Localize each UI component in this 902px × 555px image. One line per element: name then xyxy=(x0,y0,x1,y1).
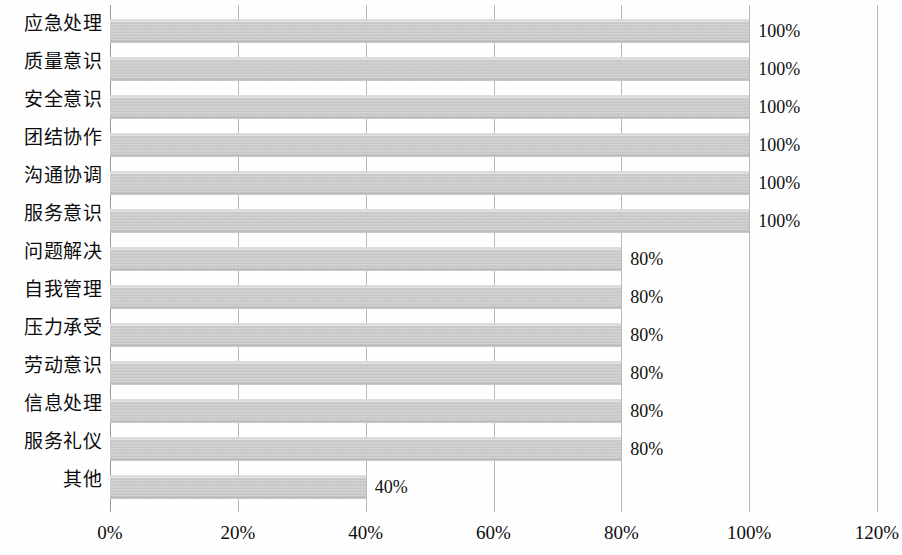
bar-shadow xyxy=(110,268,621,271)
bar-highlight xyxy=(110,361,621,364)
bar-chart: 应急处理质量意识安全意识团结协作沟通协调服务意识问题解决自我管理压力承受劳动意识… xyxy=(0,0,902,555)
category-label: 问题解决 xyxy=(0,240,102,264)
bar-shadow xyxy=(110,420,621,423)
bar-row: 100% xyxy=(110,164,877,202)
x-tick-label: 120% xyxy=(855,520,899,546)
bar-highlight xyxy=(110,57,749,60)
gridline-120pct xyxy=(877,5,878,512)
bar-row: 40% xyxy=(110,468,877,506)
x-tick-label: 20% xyxy=(220,520,255,546)
bar-highlight xyxy=(110,247,621,250)
bar-value-label: 100% xyxy=(758,96,800,118)
bar-value-label: 80% xyxy=(630,438,663,460)
x-tick-label: 100% xyxy=(727,520,771,546)
bar-row: 80% xyxy=(110,278,877,316)
x-tick-label: 0% xyxy=(97,520,122,546)
bar-highlight xyxy=(110,171,749,174)
bar-value-label: 40% xyxy=(375,476,408,498)
bar xyxy=(110,285,621,309)
category-axis-labels: 应急处理质量意识安全意识团结协作沟通协调服务意识问题解决自我管理压力承受劳动意识… xyxy=(0,5,102,512)
x-tick-label: 60% xyxy=(476,520,511,546)
bar-value-label: 80% xyxy=(630,324,663,346)
bar-shadow xyxy=(110,192,749,195)
category-label: 压力承受 xyxy=(0,316,102,340)
bar-highlight xyxy=(110,19,749,22)
bar-highlight xyxy=(110,475,366,478)
bar-shadow xyxy=(110,116,749,119)
bar-shadow xyxy=(110,496,366,499)
bar-row: 100% xyxy=(110,50,877,88)
bars-layer: 100%100%100%100%100%100%80%80%80%80%80%8… xyxy=(110,5,877,512)
category-label: 服务意识 xyxy=(0,202,102,226)
bar xyxy=(110,19,749,43)
category-label: 服务礼仪 xyxy=(0,430,102,454)
bar-value-label: 100% xyxy=(758,134,800,156)
bar-highlight xyxy=(110,95,749,98)
bar-highlight xyxy=(110,437,621,440)
x-tick-label: 80% xyxy=(604,520,639,546)
bar-row: 80% xyxy=(110,430,877,468)
bar-value-label: 80% xyxy=(630,400,663,422)
bar-highlight xyxy=(110,285,621,288)
bar xyxy=(110,95,749,119)
category-label: 其他 xyxy=(0,468,102,492)
bar-highlight xyxy=(110,209,749,212)
bar-shadow xyxy=(110,306,621,309)
bar-shadow xyxy=(110,40,749,43)
x-tick-label: 40% xyxy=(348,520,383,546)
bar-shadow xyxy=(110,78,749,81)
bar-value-label: 100% xyxy=(758,210,800,232)
bar-highlight xyxy=(110,399,621,402)
bar xyxy=(110,399,621,423)
bar-shadow xyxy=(110,344,621,347)
category-label: 信息处理 xyxy=(0,392,102,416)
bar xyxy=(110,209,749,233)
bar-shadow xyxy=(110,230,749,233)
bar-row: 80% xyxy=(110,354,877,392)
category-label: 质量意识 xyxy=(0,50,102,74)
bar-value-label: 80% xyxy=(630,286,663,308)
category-label: 自我管理 xyxy=(0,278,102,302)
bar-row: 80% xyxy=(110,392,877,430)
bar xyxy=(110,247,621,271)
category-label: 安全意识 xyxy=(0,88,102,112)
plot-area: 100%100%100%100%100%100%80%80%80%80%80%8… xyxy=(110,5,877,512)
category-label: 应急处理 xyxy=(0,12,102,36)
bar-row: 100% xyxy=(110,202,877,240)
category-label: 沟通协调 xyxy=(0,164,102,188)
category-label: 劳动意识 xyxy=(0,354,102,378)
bar-row: 100% xyxy=(110,12,877,50)
bar-row: 80% xyxy=(110,240,877,278)
bar-highlight xyxy=(110,323,621,326)
bar xyxy=(110,57,749,81)
bar-shadow xyxy=(110,154,749,157)
bar-value-label: 100% xyxy=(758,20,800,42)
bar xyxy=(110,361,621,385)
bar xyxy=(110,171,749,195)
bar-value-label: 80% xyxy=(630,248,663,270)
bar xyxy=(110,437,621,461)
bar xyxy=(110,323,621,347)
bar xyxy=(110,133,749,157)
x-axis-tick-labels: 0%20%40%60%80%100%120% xyxy=(0,520,902,555)
bar-highlight xyxy=(110,133,749,136)
bar-row: 100% xyxy=(110,126,877,164)
bar-shadow xyxy=(110,382,621,385)
bar-shadow xyxy=(110,458,621,461)
bar xyxy=(110,475,366,499)
bar-value-label: 100% xyxy=(758,172,800,194)
bar-value-label: 100% xyxy=(758,58,800,80)
bar-row: 80% xyxy=(110,316,877,354)
bar-value-label: 80% xyxy=(630,362,663,384)
category-label: 团结协作 xyxy=(0,126,102,150)
bar-row: 100% xyxy=(110,88,877,126)
